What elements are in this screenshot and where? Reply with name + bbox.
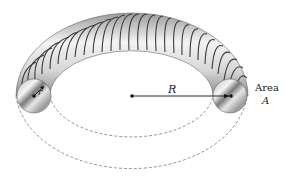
right-center-dot [229,94,233,98]
inner-dashed-ellipse [50,96,213,137]
left-center-dot [32,94,36,98]
minor-radius-label: r [38,88,42,97]
area-symbol-label: A [262,96,269,106]
major-radius-label: R [168,84,176,95]
torus-core [16,13,248,96]
toroid-drawing [0,0,285,189]
toroid-diagram: R r Area A [0,0,285,189]
outer-dashed-ellipse [16,96,247,169]
area-word-label: Area [255,83,279,93]
